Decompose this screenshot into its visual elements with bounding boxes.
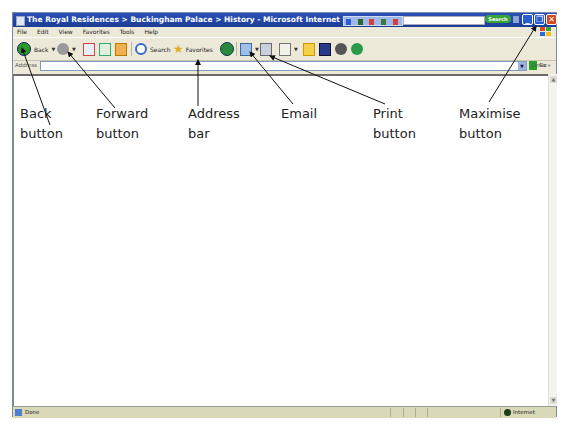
refresh-button[interactable] (99, 42, 111, 56)
menu-view[interactable]: View (59, 28, 73, 35)
annotation-email: Email (281, 104, 317, 124)
status-divider (415, 408, 416, 417)
addon-icon[interactable] (381, 19, 386, 25)
status-divider (427, 408, 428, 417)
address-dropdown-icon[interactable]: ▼ (518, 62, 526, 70)
annotation-print-button: Print button (373, 104, 416, 144)
forward-button[interactable]: ▼ (57, 42, 76, 56)
mail-dropdown-icon[interactable]: ▼ (255, 46, 259, 52)
history-button[interactable] (220, 42, 234, 56)
standard-toolbar: Back ▼ ▼ Search ★ Favorites (13, 37, 556, 61)
back-dropdown-icon[interactable]: ▼ (52, 46, 56, 52)
internet-zone-icon (504, 409, 511, 416)
favorites-button[interactable]: ★ Favorites (173, 42, 213, 56)
toolbar-addon-icons[interactable] (343, 16, 403, 26)
stop-button[interactable] (83, 42, 95, 56)
address-label: Address (15, 62, 37, 68)
menu-file[interactable]: File (17, 28, 27, 35)
addon-icon[interactable] (346, 19, 351, 25)
stop-icon (83, 43, 95, 56)
forward-arrow-icon (57, 43, 69, 55)
messenger-chat-button[interactable] (335, 42, 347, 56)
windows-logo-icon (540, 27, 552, 37)
print-button[interactable] (260, 42, 272, 56)
history-icon (220, 42, 234, 56)
home-icon (115, 43, 127, 56)
menu-tools[interactable]: Tools (120, 28, 135, 35)
scroll-down-arrow-icon[interactable]: ▼ (550, 397, 557, 404)
annotation-address-bar: Address bar (188, 104, 240, 144)
status-divider (500, 408, 501, 417)
favorites-label: Favorites (186, 46, 213, 53)
annotation-back-button: Back button (20, 104, 63, 144)
addon-icon[interactable] (369, 19, 374, 25)
edit-button[interactable]: ▼ (279, 42, 298, 56)
menu-edit[interactable]: Edit (37, 28, 49, 35)
status-bar: Done Internet (13, 406, 556, 418)
toolbar-separator (236, 42, 237, 56)
back-button[interactable]: Back ▼ (17, 42, 55, 56)
links-label: Links (532, 62, 546, 68)
address-bar: Address ▼ Go Links » (13, 60, 556, 73)
notes-icon (303, 43, 315, 56)
close-button[interactable]: ✕ (546, 14, 557, 25)
favorites-star-icon: ★ (173, 42, 184, 56)
edit-dropdown-icon[interactable]: ▼ (294, 46, 298, 52)
refresh-icon (99, 43, 111, 56)
links-button[interactable]: Links » (532, 62, 551, 68)
search-icon (135, 43, 147, 55)
vertical-scrollbar[interactable]: ▲ ▼ (548, 74, 557, 406)
menu-bar: File Edit View Favorites Tools Help (13, 27, 556, 37)
search-button[interactable]: Search (135, 42, 171, 56)
research-button[interactable] (319, 42, 331, 56)
back-arrow-icon (17, 42, 31, 56)
ie-page-icon (16, 16, 25, 26)
notes-button[interactable] (303, 42, 315, 56)
status-text: Done (25, 407, 39, 418)
messenger-button[interactable] (351, 42, 363, 56)
address-input[interactable]: ▼ (40, 61, 527, 71)
annotation-maximise-button: Maximise button (459, 104, 521, 144)
research-icon (319, 43, 331, 56)
chat-bubble-icon (335, 43, 347, 55)
menu-favorites[interactable]: Favorites (83, 28, 110, 35)
mail-button[interactable]: ▼ (240, 42, 259, 56)
addon-icon[interactable] (393, 19, 398, 25)
title-bar: The Royal Residences > Buckingham Palace… (13, 13, 556, 27)
status-divider (403, 408, 404, 417)
home-button[interactable] (115, 42, 127, 56)
forward-dropdown-icon[interactable]: ▼ (72, 46, 76, 52)
status-divider (390, 408, 391, 417)
edit-icon (279, 43, 291, 56)
menu-help[interactable]: Help (144, 28, 158, 35)
page-done-icon (15, 409, 22, 416)
addon-search-button[interactable]: Search (485, 15, 511, 23)
window-title: The Royal Residences > Buckingham Palace… (27, 13, 378, 27)
addon-search-options-icon[interactable] (513, 16, 519, 23)
mail-icon (240, 43, 252, 56)
printer-icon (260, 43, 272, 56)
search-label: Search (150, 46, 171, 53)
addon-icon[interactable] (358, 19, 363, 25)
scroll-up-arrow-icon[interactable]: ▲ (550, 76, 557, 83)
annotation-forward-button: Forward button (96, 104, 148, 144)
maximize-button[interactable]: ❐ (534, 14, 545, 25)
minimize-button[interactable]: _ (522, 14, 533, 25)
browser-window: The Royal Residences > Buckingham Palace… (12, 12, 557, 417)
security-zone: Internet (513, 407, 535, 418)
addon-search-input[interactable] (403, 16, 485, 25)
back-label: Back (34, 46, 49, 53)
toolbar-separator (131, 42, 132, 56)
messenger-people-icon (351, 43, 363, 55)
